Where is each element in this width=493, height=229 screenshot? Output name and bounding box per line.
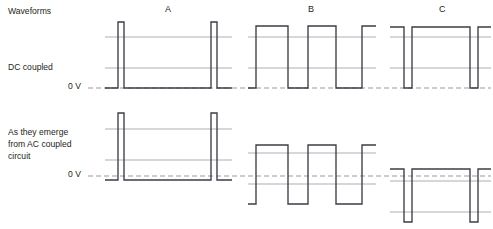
waveform-plot-area — [0, 0, 493, 229]
waveform-b-ac — [248, 145, 376, 204]
waveform-b-dc — [248, 26, 376, 88]
waveform-c-dc — [390, 27, 491, 88]
waveform-a-dc — [105, 22, 232, 88]
row-dc-coupled — [88, 22, 491, 88]
waveform-c-ac — [390, 169, 491, 222]
waveform-a-ac — [105, 113, 232, 180]
row-ac-coupled — [88, 113, 491, 222]
waveform-figure: Waveforms DC coupled As they emerge from… — [0, 0, 493, 229]
